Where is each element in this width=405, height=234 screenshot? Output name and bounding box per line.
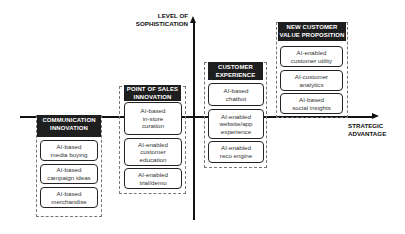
y-axis-label-line2: SOPHISTICATION — [120, 20, 188, 28]
x-axis-label: STRATEGIC ADVANTAGE — [348, 122, 398, 137]
item-line: AI-based — [57, 166, 82, 174]
item-in-store-curation: AI-based in-store curation — [124, 102, 182, 135]
item-line: merchandise — [51, 198, 86, 206]
y-axis-label: LEVEL OF SOPHISTICATION — [120, 12, 188, 27]
item-merchandise: AI-based merchandise — [40, 187, 98, 208]
item-line: AI-enabled — [297, 49, 327, 57]
arrow-right-icon — [372, 113, 379, 119]
header-line2: EXPERIENCE — [208, 72, 263, 80]
item-customer-analytics: AI-customer analytics — [280, 70, 343, 91]
item-line: analytics — [299, 81, 323, 89]
group-header: NEW CUSTOMER VALUE PROPOSITION — [278, 22, 346, 41]
item-line: AI-based — [57, 143, 82, 151]
group-header: CUSTOMER EXPERIENCE — [208, 62, 263, 80]
item-customer-utility: AI-enabled customer utility — [280, 46, 343, 67]
item-line: customer — [140, 148, 165, 156]
header-line1: POINT OF SALES — [124, 86, 181, 94]
item-line: in-store — [143, 115, 164, 123]
item-reco-engine: AI-enabled reco engine — [208, 141, 264, 163]
x-axis-label-line1: STRATEGIC — [348, 122, 398, 130]
item-line: AI-enabled — [138, 141, 168, 149]
item-line: chatbot — [226, 95, 246, 103]
arrow-up-icon — [190, 16, 196, 23]
item-line: experience — [221, 128, 251, 136]
item-line: AI-enabled — [221, 144, 251, 152]
group-header: POINT OF SALES INNOVATION — [124, 85, 181, 101]
item-website-app-experience: AI-enabled website/app experience — [208, 109, 264, 139]
item-line: AI-enabled — [138, 171, 168, 179]
item-line: media buying — [51, 151, 88, 159]
item-line: customer utility — [291, 57, 332, 65]
item-line: AI-based — [299, 96, 324, 104]
header-line1: COMMUNICATION — [37, 117, 101, 125]
item-line: education — [140, 156, 167, 164]
item-line: reco engine — [220, 152, 252, 160]
item-trial-demo: AI-enabled trial/demo — [124, 168, 182, 189]
item-chatbot: AI-based chatbot — [208, 83, 264, 106]
item-line: social insights — [292, 104, 331, 112]
header-line1: CUSTOMER — [208, 64, 263, 72]
item-line: AI-enabled — [221, 113, 251, 121]
item-line: curation — [142, 122, 164, 130]
header-line1: NEW CUSTOMER — [278, 24, 346, 32]
item-social-insights: AI-based social insights — [280, 93, 343, 114]
header-line2: VALUE PROPOSITION — [278, 32, 346, 40]
group-header: COMMUNICATION INNOVATION — [37, 115, 101, 137]
item-customer-education: AI-enabled customer education — [124, 138, 182, 166]
item-line: AI-based — [57, 190, 82, 198]
y-axis-label-line1: LEVEL OF — [120, 12, 188, 20]
item-line: AI-based — [224, 87, 249, 95]
item-line: campaign ideas — [47, 174, 90, 182]
header-line2: INNOVATION — [124, 94, 181, 102]
sophistication-axis — [193, 22, 195, 220]
item-line: website/app — [219, 120, 252, 128]
item-campaign-ideas: AI-based campaign ideas — [40, 164, 98, 184]
item-line: AI-based — [141, 107, 166, 115]
item-line: AI-customer — [295, 73, 328, 81]
item-line: trial/demo — [139, 179, 166, 187]
item-media-buying: AI-based media buying — [40, 140, 98, 161]
header-line2: INNOVATION — [37, 125, 101, 133]
x-axis-label-line2: ADVANTAGE — [348, 130, 398, 138]
